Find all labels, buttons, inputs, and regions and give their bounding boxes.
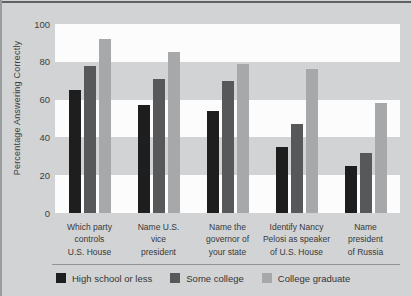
x-category-label: Name U.S. vice president — [138, 221, 180, 258]
legend-item: High school or less — [56, 273, 152, 284]
x-category-label: Identify Nancy Pelosi as speaker of U.S.… — [263, 221, 330, 258]
bar — [84, 66, 96, 213]
legend-swatch — [170, 273, 180, 283]
legend-swatch — [56, 273, 66, 283]
bar-group — [138, 24, 180, 213]
legend-divider — [52, 264, 400, 265]
x-category-label: Name the governor of your state — [206, 221, 249, 258]
y-tick-label: 20 — [39, 170, 50, 181]
y-tick-label: 0 — [45, 208, 50, 219]
bar — [375, 103, 387, 213]
bar-group — [207, 24, 249, 213]
bar-groups-container — [55, 24, 400, 213]
y-tick-label: 100 — [34, 19, 50, 30]
bar — [138, 105, 150, 213]
bar-group — [276, 24, 318, 213]
bar — [360, 153, 372, 213]
bar — [69, 90, 81, 213]
x-category-label: Name president of Russia — [348, 221, 383, 258]
y-tick-label: 80 — [39, 56, 50, 67]
political-knowledge-bar-chart: Percentage Answering Correctly 100806040… — [0, 0, 411, 296]
bar — [306, 69, 318, 213]
bar — [207, 111, 219, 213]
legend-item: College graduate — [262, 273, 350, 284]
bar — [99, 39, 111, 213]
y-tick-label: 40 — [39, 132, 50, 143]
figure-top-border — [0, 1, 411, 3]
bar — [153, 79, 165, 213]
legend-label: High school or less — [72, 273, 152, 284]
bar — [222, 81, 234, 213]
bar-group — [69, 24, 111, 213]
bar — [291, 124, 303, 213]
bar — [276, 147, 288, 213]
y-axis-ticks: 100806040200 — [0, 24, 52, 213]
bar-group — [345, 24, 387, 213]
x-category-label: Which party controls U.S. House — [67, 221, 112, 258]
legend-item: Some college — [170, 273, 244, 284]
bar — [168, 52, 180, 213]
legend-swatch — [262, 273, 272, 283]
legend-label: College graduate — [278, 273, 350, 284]
bar — [237, 64, 249, 213]
x-axis-labels: Which party controls U.S. HouseName U.S.… — [55, 221, 400, 263]
legend: High school or lessSome collegeCollege g… — [56, 270, 350, 286]
y-tick-label: 60 — [39, 94, 50, 105]
bar — [345, 166, 357, 213]
legend-label: Some college — [186, 273, 244, 284]
